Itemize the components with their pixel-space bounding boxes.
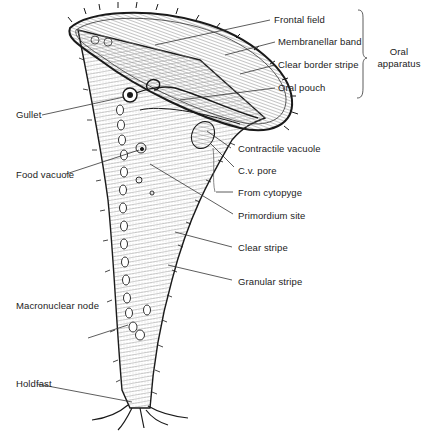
label-oral-apparatus-line2: apparatus: [369, 58, 429, 70]
label-granular-stripe: Granular stripe: [238, 276, 302, 287]
label-frontal-field: Frontal field: [274, 14, 325, 25]
holdfast: [92, 405, 188, 430]
label-oral-apparatus-line1: Oral: [369, 46, 429, 58]
label-macronuclear-node: Macronuclear node: [16, 300, 99, 311]
label-clear-stripe: Clear stripe: [238, 242, 288, 253]
label-holdfast: Holdfast: [16, 378, 52, 389]
stentor-diagram: Frontal field Membranellar band Clear bo…: [0, 0, 430, 438]
label-from-cytopyge: From cytopyge: [238, 187, 302, 198]
label-oral-pouch: Oral pouch: [278, 82, 325, 93]
label-oral-apparatus: Oral apparatus: [369, 46, 429, 70]
organism-illustration: [0, 0, 430, 438]
label-cv-pore: C.v. pore: [238, 165, 277, 176]
label-membranellar-band: Membranellar band: [278, 36, 362, 47]
label-gullet: Gullet: [16, 109, 41, 120]
gullet: [123, 88, 137, 102]
label-clear-border-stripe: Clear border stripe: [278, 59, 359, 70]
label-contractile-vacuole: Contractile vacuole: [238, 143, 321, 154]
label-food-vacuole: Food vacuole: [16, 169, 74, 180]
label-primordium-site: Primordium site: [238, 210, 306, 221]
